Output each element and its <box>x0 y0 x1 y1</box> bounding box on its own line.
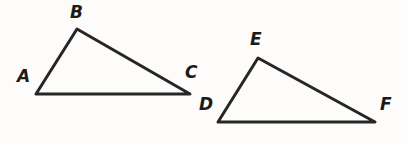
vertex-label-b: B <box>70 4 83 21</box>
vertex-label-e: E <box>250 31 262 48</box>
geometry-figure-canvas: A B C D E F <box>0 0 408 144</box>
vertex-label-d: D <box>199 96 213 113</box>
triangles-diagram <box>0 0 408 144</box>
vertex-label-f: F <box>380 96 392 113</box>
vertex-label-c: C <box>185 64 197 81</box>
triangle-abc <box>36 29 190 94</box>
triangle-def <box>218 58 375 122</box>
vertex-label-a: A <box>17 68 30 85</box>
